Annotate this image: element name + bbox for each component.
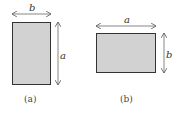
caption-a: (a): [24, 94, 36, 104]
rectangle-a: [13, 23, 51, 85]
diagram: b a (a) a b (b): [0, 0, 174, 119]
caption-b: (b): [120, 94, 133, 104]
width-label-a: b: [29, 2, 35, 13]
width-label-b: a: [124, 14, 130, 25]
height-label-b: b: [166, 49, 172, 60]
figure-a: b a (a): [12, 2, 66, 104]
height-label-a: a: [60, 50, 66, 61]
figure-b: a b (b): [96, 14, 172, 104]
rectangle-b: [97, 34, 156, 73]
